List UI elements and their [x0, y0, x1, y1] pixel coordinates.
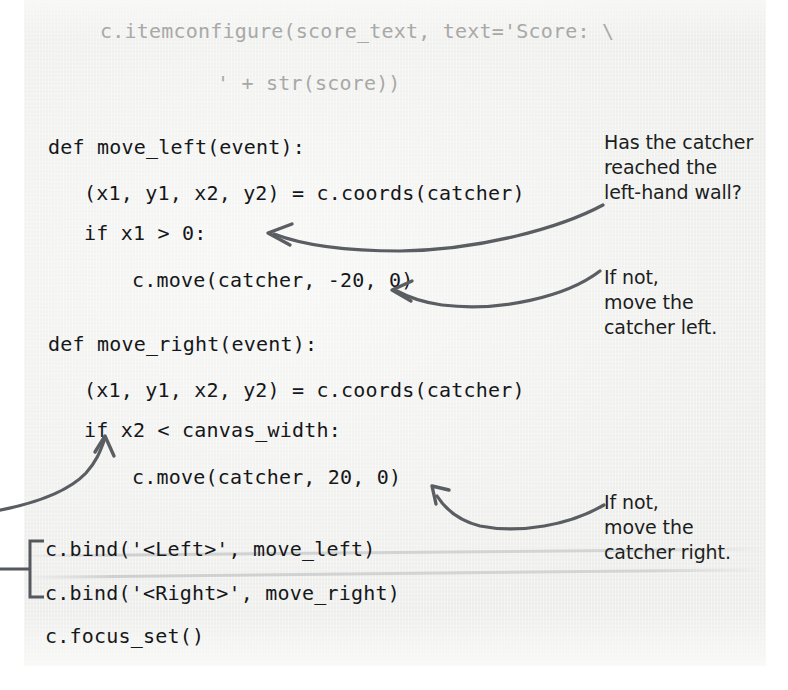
- code-line-11: c.bind('<Right>', move_right): [45, 582, 400, 604]
- code-line-3: (x1, y1, x2, y2) = c.coords(catcher): [84, 182, 525, 204]
- code-line-8: if x2 < canvas_width:: [84, 419, 341, 441]
- annotation-move-catcher-left: If not, move the catcher left.: [604, 265, 774, 340]
- code-line-10: c.bind('<Left>', move_left): [45, 538, 376, 560]
- code-line-7: (x1, y1, x2, y2) = c.coords(catcher): [84, 379, 525, 401]
- code-line-9: c.move(catcher, 20, 0): [132, 466, 401, 488]
- scanned-book-page: c.itemconfigure(score_text, text='Score:…: [0, 0, 788, 690]
- code-line-0: c.itemconfigure(score_text, text='Score:…: [100, 20, 614, 42]
- code-line-1: ' + str(score)): [217, 72, 401, 94]
- code-line-6: def move_right(event):: [48, 333, 317, 355]
- annotation-catcher-left-wall: Has the catcher reached the left-hand wa…: [604, 130, 774, 205]
- code-line-12: c.focus_set(): [45, 625, 204, 647]
- annotation-move-catcher-right: If not, move the catcher right.: [604, 490, 774, 565]
- code-line-5: c.move(catcher, -20, 0): [132, 269, 414, 291]
- code-line-2: def move_left(event):: [48, 136, 305, 158]
- code-line-4: if x1 > 0:: [84, 222, 206, 244]
